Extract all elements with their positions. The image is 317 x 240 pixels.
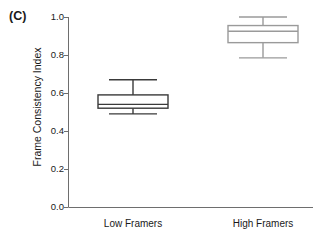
figure-panel-c: (C) Frame Consistency Index 1.0 0.8 0.6 … (0, 0, 317, 240)
box-iqr (228, 26, 298, 43)
x-category-label-high-framers: High Framers (233, 219, 294, 229)
x-category-label-low-framers: Low Framers (104, 219, 162, 229)
axis-lines (69, 17, 314, 208)
boxplot-low-framers (98, 80, 168, 114)
box-iqr (98, 95, 168, 108)
plot-area (0, 0, 317, 240)
y-axis-ticks (64, 18, 69, 208)
boxplot-high-framers (228, 17, 298, 58)
